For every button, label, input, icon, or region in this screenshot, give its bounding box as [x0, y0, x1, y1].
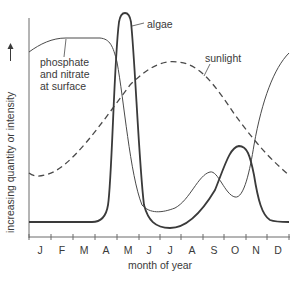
- phosphate-label-line3: at surface: [40, 80, 86, 92]
- y-axis-title: increasing quantity or intensity: [4, 91, 16, 233]
- month-label-sep: S: [210, 244, 217, 256]
- algae-leader-line: [132, 23, 144, 26]
- algae-curve: [29, 13, 289, 228]
- month-label-apr: A: [102, 244, 109, 256]
- algae-label: algae: [147, 18, 173, 30]
- x-tick-labels: J F M A M J J A S O N D: [37, 244, 282, 256]
- month-label-jan: J: [37, 244, 42, 256]
- month-label-aug: A: [188, 244, 195, 256]
- month-label-nov: N: [252, 244, 260, 256]
- month-label-jun: J: [146, 244, 151, 256]
- month-label-may: M: [124, 244, 133, 256]
- x-axis-title: month of year: [128, 259, 193, 271]
- arrowhead-icon: [8, 43, 14, 49]
- phosphate-label-line2: and nitrate: [40, 68, 90, 80]
- month-label-dec: D: [274, 244, 282, 256]
- month-label-feb: F: [59, 244, 65, 256]
- month-label-mar: M: [80, 244, 89, 256]
- sunlight-leader-line: [204, 64, 210, 76]
- chart-canvas: J F M A M J J A S O N D month of year in…: [0, 0, 301, 281]
- y-axis-title-group: increasing quantity or intensity: [4, 43, 16, 233]
- phosphate-label-line1: phosphate: [40, 56, 89, 68]
- month-label-jul: J: [167, 244, 172, 256]
- sunlight-label: sunlight: [205, 52, 241, 64]
- phosphate-leader-line: [64, 39, 66, 57]
- month-label-oct: O: [231, 244, 239, 256]
